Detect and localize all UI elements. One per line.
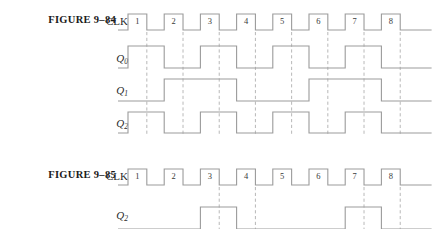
figure-9-85: FIGURE 9–85 CLK Q2 12345678 <box>0 155 440 229</box>
figure-9-84: FIGURE 9–84 CLK Q0 Q1 Q2 12345678 <box>0 0 440 150</box>
clk-pulse-number: 8 <box>389 16 393 26</box>
clk-pulse-number: 7 <box>352 16 356 26</box>
clk-waveform <box>118 14 432 30</box>
clk-waveform <box>118 169 432 185</box>
timing-diagram-9-85: 12345678 <box>0 155 440 229</box>
clk-pulse-number: 5 <box>280 171 284 181</box>
clk-pulse-number: 2 <box>171 16 175 26</box>
clk-pulse-number: 7 <box>352 171 356 181</box>
q2-waveform <box>118 207 432 229</box>
q1-waveform <box>118 79 432 101</box>
clk-pulse-number: 3 <box>208 171 212 181</box>
clk-pulse-number: 2 <box>171 171 175 181</box>
clk-pulse-number: 4 <box>244 16 249 26</box>
clk-pulse-number: 8 <box>389 171 393 181</box>
clk-pulse-number: 4 <box>244 171 249 181</box>
clk-pulse-number: 6 <box>316 171 320 181</box>
clk-pulse-number: 3 <box>208 16 212 26</box>
clk-pulse-number: 1 <box>135 171 139 181</box>
q0-waveform <box>118 46 432 68</box>
clk-pulse-number: 1 <box>135 16 139 26</box>
clk-pulse-number: 5 <box>280 16 284 26</box>
q2-waveform <box>118 112 432 133</box>
clk-pulse-number: 6 <box>316 16 320 26</box>
timing-diagram-9-84: 12345678 <box>0 0 440 150</box>
